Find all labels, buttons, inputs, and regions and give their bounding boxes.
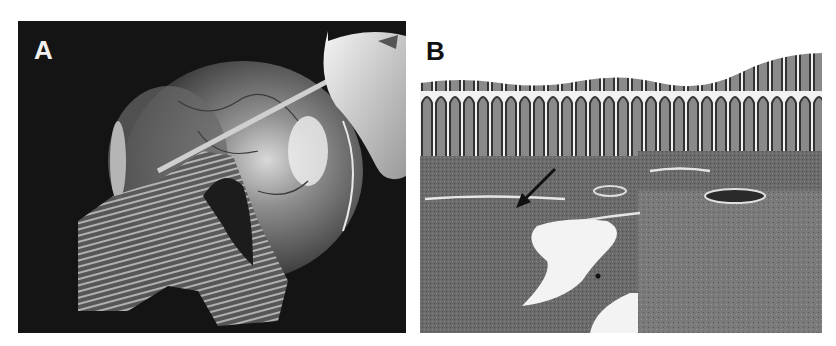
specimen-image (18, 21, 406, 333)
panel-b-histology: B (420, 21, 822, 333)
panel-a-specimen-photo: A (18, 21, 406, 333)
histology-image (420, 21, 822, 333)
panel-label-b: B (426, 38, 445, 64)
panel-label-a: A (34, 37, 53, 63)
